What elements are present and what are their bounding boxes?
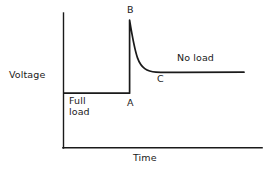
voltage-response-curve (64, 20, 244, 93)
point-b-annotation: B (127, 4, 134, 15)
point-a-annotation: A (127, 97, 134, 108)
full-load-annotation: Full load (69, 95, 90, 117)
y-axis-label: Voltage (9, 69, 45, 80)
voltage-vs-time-figure: Voltage Time Full load No load A B C (0, 0, 270, 169)
x-axis-label: Time (133, 152, 157, 163)
chart-plot-area (0, 0, 270, 169)
point-c-annotation: C (157, 73, 164, 84)
no-load-annotation: No load (177, 52, 214, 63)
